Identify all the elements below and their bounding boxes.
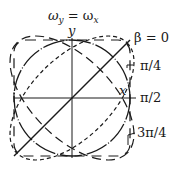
label-pi-over-2: π/2: [140, 90, 161, 105]
label-3pi-over-4: 3π/4: [137, 125, 166, 140]
lissajous-diagram: ωy = ωx y x β = 0 π/4 π/2 3π/4: [0, 0, 193, 172]
y-axis-label: y: [67, 23, 76, 38]
label-beta-0: β = 0: [134, 30, 169, 45]
leader-3pi-over-4: [128, 133, 135, 145]
label-pi-over-4: π/4: [140, 58, 161, 73]
